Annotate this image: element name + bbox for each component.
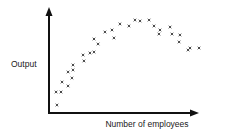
y-axis-arrowhead (46, 7, 53, 16)
data-point (187, 49, 190, 52)
data-point (56, 104, 59, 107)
data-point (111, 29, 114, 32)
data-point (72, 69, 75, 72)
data-point (97, 43, 100, 46)
data-point (61, 81, 64, 84)
data-point (179, 34, 182, 37)
x-axis-arrowhead (190, 110, 199, 117)
data-point (72, 64, 75, 67)
data-point (178, 41, 181, 44)
data-point (93, 51, 96, 54)
data-point (119, 23, 122, 26)
scatter-chart: Output Number of employees (0, 0, 240, 132)
x-axis (48, 110, 199, 117)
data-point (89, 52, 92, 55)
data-point (67, 71, 70, 74)
data-point (82, 54, 85, 57)
data-point (71, 77, 74, 80)
data-points (55, 19, 201, 107)
data-point (60, 91, 63, 94)
data-point (113, 37, 116, 40)
data-point (159, 29, 162, 32)
data-point (104, 31, 107, 34)
y-axis-label: Output (11, 59, 37, 69)
data-point (169, 26, 172, 29)
data-point (93, 38, 96, 41)
data-point (134, 19, 137, 22)
y-axis (46, 7, 53, 113)
data-point (128, 25, 131, 28)
data-point (55, 91, 58, 94)
data-point (198, 47, 201, 50)
data-point (67, 85, 70, 88)
x-axis-label: Number of employees (105, 119, 188, 129)
data-point (148, 19, 151, 22)
data-point (158, 33, 161, 36)
data-point (139, 20, 142, 23)
data-point (83, 60, 86, 63)
data-point (171, 33, 174, 36)
data-point (153, 25, 156, 28)
